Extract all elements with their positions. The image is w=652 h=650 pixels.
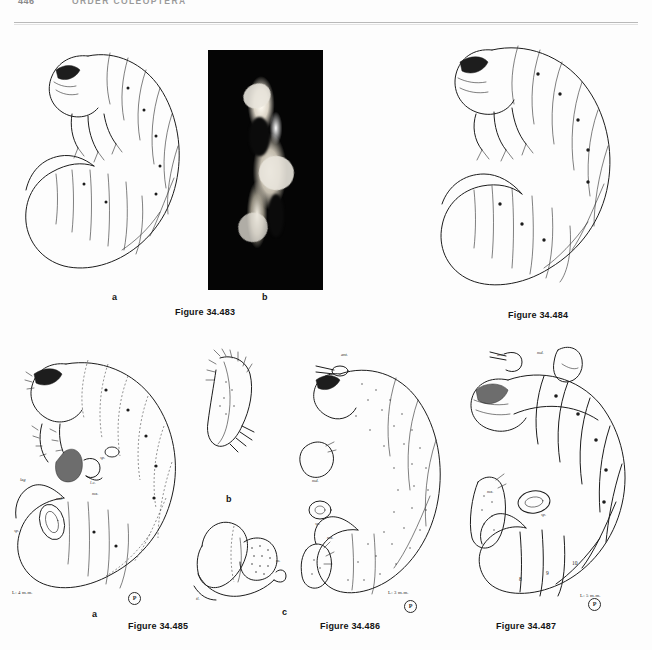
running-head-title: ORDER COLEOPTERA bbox=[72, 0, 187, 6]
annotation-487-antenna: ant. bbox=[497, 352, 504, 357]
annotation-tormal-process: tl. bbox=[196, 596, 200, 601]
credit-mark-34-486: P bbox=[404, 600, 417, 613]
segment-number-10: 10 bbox=[572, 560, 578, 566]
scale-label-34-486: L: 3 m.m. bbox=[388, 590, 409, 595]
figure-caption-34-484: Figure 34.484 bbox=[508, 310, 568, 320]
figure-34-484-drawing bbox=[430, 28, 640, 303]
annotation-486-spiracle: sp. bbox=[315, 521, 320, 526]
credit-mark-34-485: P bbox=[128, 592, 141, 605]
annotation-487-spiracle: sp. bbox=[541, 512, 546, 517]
annotation-mandible: md. bbox=[56, 496, 63, 501]
figure-34-487-drawing bbox=[462, 340, 642, 602]
figure-34-483-b-photograph bbox=[208, 50, 323, 290]
figure-caption-34-487: Figure 34.487 bbox=[496, 621, 556, 631]
subfigure-label-485-a: a bbox=[92, 609, 97, 619]
annotation-487-maxilla: mx. bbox=[487, 489, 494, 494]
annotation-maxilla: mx. bbox=[92, 491, 99, 496]
annotation-lacinia: l.c. bbox=[90, 480, 96, 485]
figure-caption-34-483: Figure 34.483 bbox=[175, 307, 235, 317]
subfigure-label-b: b bbox=[262, 292, 268, 302]
figure-caption-34-486: Figure 34.486 bbox=[320, 621, 380, 631]
figure-34-486-drawing bbox=[296, 344, 461, 604]
annotation-spiracle-large: sp. bbox=[14, 528, 19, 533]
annotation-mala: m. bbox=[276, 558, 280, 563]
annotation-486-maxilla: mx. bbox=[327, 535, 334, 540]
document-page: 446 ORDER COLEOPTERA bbox=[0, 0, 652, 650]
annotation-486-antenna: ant. bbox=[341, 352, 348, 357]
running-header: 446 ORDER COLEOPTERA bbox=[0, 0, 652, 14]
annotation-486-mandible: md. bbox=[312, 478, 319, 483]
figure-caption-34-485: Figure 34.485 bbox=[128, 621, 188, 631]
subfigure-label-485-b: b bbox=[226, 494, 232, 504]
credit-mark-34-487: P bbox=[588, 598, 601, 611]
header-rule bbox=[14, 22, 638, 23]
annotation-leg: leg bbox=[20, 477, 26, 482]
subfigure-label-a: a bbox=[112, 292, 117, 302]
segment-number-9: 9 bbox=[546, 570, 549, 576]
scale-label-34-487: L: 5 m.m. bbox=[580, 593, 601, 598]
header-rule-shadow bbox=[14, 24, 638, 25]
annotation-487-mandible: md. bbox=[537, 350, 544, 355]
page-folio: 446 bbox=[18, 0, 35, 6]
annotation-spiracle-small: sp. bbox=[100, 455, 105, 460]
subfigure-label-485-c: c bbox=[282, 607, 287, 617]
scale-label-34-485: L: 4 m.m. bbox=[12, 590, 33, 595]
figure-34-485-a-drawing bbox=[8, 346, 188, 601]
segment-number-8: 8 bbox=[519, 576, 522, 582]
figure-34-485-b-drawing bbox=[196, 348, 276, 458]
figure-34-483-a-drawing bbox=[10, 26, 200, 291]
